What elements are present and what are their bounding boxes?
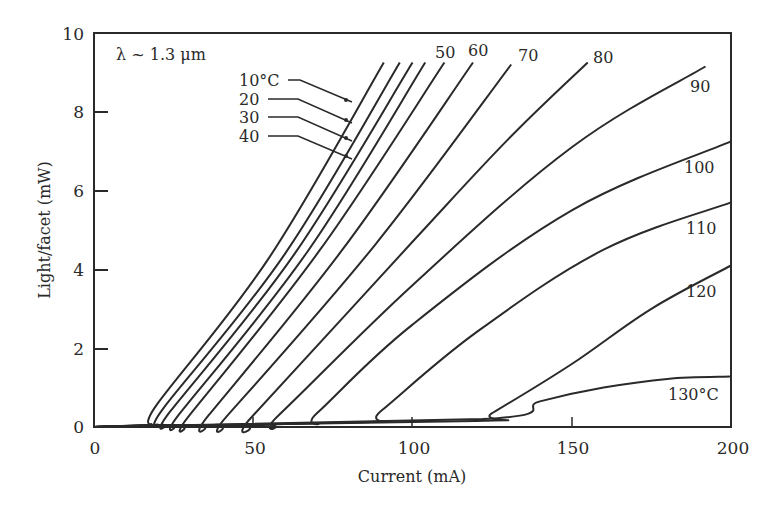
x-tick-0: 0 (90, 438, 101, 458)
curve-labels: 10°C 20 30 40 50 60 70 80 90 100 110 120… (239, 41, 719, 404)
label-pointers (268, 80, 352, 159)
x-axis-tick-labels: 0 50 100 150 200 (90, 438, 750, 458)
label-70: 70 (518, 46, 538, 65)
y-tick-4: 4 (73, 260, 84, 280)
label-50: 50 (435, 43, 455, 62)
y-tick-6: 6 (73, 181, 84, 201)
y-tick-10: 10 (62, 24, 84, 44)
curve-110c (94, 202, 731, 427)
x-tick-100: 100 (398, 438, 430, 458)
curve-60c (94, 63, 473, 432)
wavelength-annotation: λ ~ 1.3 μm (116, 45, 206, 64)
label-30: 30 (239, 108, 259, 127)
label-60: 60 (468, 41, 488, 60)
y-tick-0: 0 (73, 417, 84, 437)
y-tick-2: 2 (73, 339, 84, 359)
label-120: 120 (686, 282, 717, 301)
label-10c: 10°C (239, 71, 280, 90)
label-90: 90 (690, 77, 710, 96)
x-axis-title: Current (mA) (358, 467, 466, 486)
curves (94, 63, 731, 433)
curve-40c (94, 63, 425, 431)
label-20: 20 (239, 90, 259, 109)
label-80: 80 (593, 48, 613, 67)
label-130c: 130°C (668, 385, 719, 404)
curve-90c (94, 67, 706, 429)
label-40: 40 (239, 127, 259, 146)
chart-canvas: 0 2 4 6 8 10 0 50 100 150 200 Current (m… (0, 0, 779, 511)
label-110: 110 (686, 219, 717, 238)
y-axis-tick-labels: 0 2 4 6 8 10 (62, 24, 84, 437)
y-axis-title: Light/facet (mW) (35, 161, 54, 299)
y-axis-ticks (94, 112, 108, 349)
plot-frame (94, 33, 731, 427)
label-100: 100 (684, 158, 715, 177)
y-tick-8: 8 (73, 102, 84, 122)
x-tick-50: 50 (244, 438, 266, 458)
x-tick-150: 150 (557, 438, 589, 458)
x-tick-200: 200 (717, 438, 749, 458)
light-current-chart: 0 2 4 6 8 10 0 50 100 150 200 Current (m… (0, 0, 779, 511)
